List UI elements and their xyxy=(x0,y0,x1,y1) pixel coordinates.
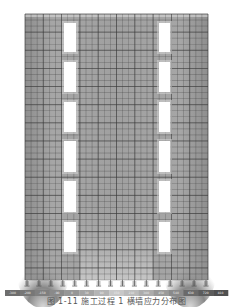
wall-opening xyxy=(64,62,76,92)
fixed-support-icon xyxy=(72,280,77,286)
fixed-support-icon xyxy=(144,280,149,286)
wall-opening xyxy=(64,102,76,132)
colorbar-label: 540 xyxy=(173,291,179,295)
stress-colorbar: -300-200-150-900309015021030045054063072… xyxy=(5,290,228,296)
colorbar-label: 300 xyxy=(143,291,149,295)
wall-stress-contour-figure: -300-200-150-900309015021030045054063072… xyxy=(0,0,233,307)
wall-opening xyxy=(159,141,170,172)
colorbar-label: 630 xyxy=(188,291,194,295)
colorbar-label: -150 xyxy=(39,291,46,295)
colorbar-label: -90 xyxy=(55,291,60,295)
colorbar-label: 150 xyxy=(114,291,120,295)
colorbar-label: 90 xyxy=(100,291,104,295)
colorbar-label: -300 xyxy=(9,291,16,295)
colorbar-label: -200 xyxy=(24,291,31,295)
colorbar-label: 720 xyxy=(203,291,209,295)
wall-opening xyxy=(159,62,170,92)
wall-opening xyxy=(64,23,76,52)
colorbar-label: 210 xyxy=(128,291,134,295)
wall-opening xyxy=(159,102,170,132)
colorbar-label: 450 xyxy=(158,291,164,295)
fixed-support-icon xyxy=(84,280,89,286)
wall-opening xyxy=(64,141,76,172)
wall-opening xyxy=(159,222,170,252)
colorbar-label: 810 xyxy=(218,291,224,295)
fixed-support-icon xyxy=(120,280,125,286)
colorbar-label: 30 xyxy=(85,291,89,295)
fixed-support-icon xyxy=(96,280,101,286)
wall-opening xyxy=(159,181,170,212)
wall-opening xyxy=(159,23,170,52)
fixed-support-icon xyxy=(108,280,113,286)
fixed-support-icon xyxy=(132,280,137,286)
colorbar-label: 0 xyxy=(71,291,73,295)
wall-opening xyxy=(64,181,76,212)
figure-caption: 图 1-11 施工过程 1 横墙应力分布图 xyxy=(0,297,233,307)
fixed-support-icon xyxy=(156,280,161,286)
wall-opening xyxy=(64,222,76,252)
